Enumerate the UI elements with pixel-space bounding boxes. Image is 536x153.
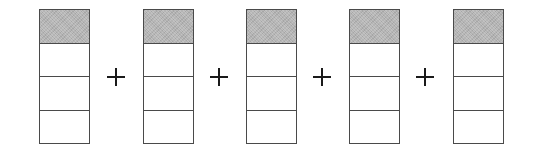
unshaded-part (247, 77, 296, 111)
unshaded-part (40, 44, 89, 78)
fraction-bar-1 (39, 9, 90, 144)
fraction-bar-3 (246, 9, 297, 144)
unshaded-part (350, 111, 399, 144)
plus-sign-icon (313, 68, 331, 86)
shaded-part (454, 10, 503, 44)
unshaded-part (247, 111, 296, 144)
plus-sign-icon (107, 68, 125, 86)
unshaded-part (144, 77, 193, 111)
shaded-part (144, 10, 193, 44)
unshaded-part (454, 111, 503, 144)
shaded-part (247, 10, 296, 44)
fraction-bar-4 (349, 9, 400, 144)
unshaded-part (144, 111, 193, 144)
shaded-part (40, 10, 89, 44)
shaded-part (350, 10, 399, 44)
unshaded-part (350, 44, 399, 78)
unshaded-part (40, 77, 89, 111)
unshaded-part (350, 77, 399, 111)
unshaded-part (454, 77, 503, 111)
unshaded-part (144, 44, 193, 78)
unshaded-part (40, 111, 89, 144)
unshaded-part (247, 44, 296, 78)
fraction-bar-2 (143, 9, 194, 144)
plus-sign-icon (416, 68, 434, 86)
plus-sign-icon (210, 68, 228, 86)
fraction-bar-5 (453, 9, 504, 144)
unshaded-part (454, 44, 503, 78)
